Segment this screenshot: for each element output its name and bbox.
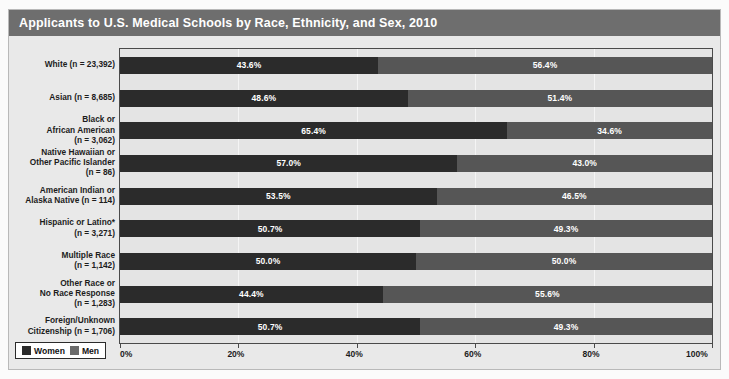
bar-segment-men[interactable]: 56.4% [378,57,712,74]
bar-value-label-men: 46.5% [562,191,587,201]
bar-segment-women[interactable]: 50.0% [120,253,416,270]
bar-segment-women[interactable]: 43.6% [120,57,378,74]
category-axis-labels: White (n = 23,392)Asian (n = 8,685)Black… [9,48,115,344]
bar-segment-women[interactable]: 50.7% [120,318,420,335]
bar-row: 53.5%46.5% [120,188,712,205]
bar-row: 65.4%34.6% [120,122,712,139]
bar-value-label-women: 65.4% [301,126,326,136]
category-label: Other Race or No Race Response (n = 1,28… [9,278,115,309]
chart-legend: Women Men [15,342,106,359]
axis-tick-label: 100% [686,349,708,359]
bar-segment-men[interactable]: 49.3% [420,220,712,237]
chart-screenshot: Applicants to U.S. Medical Schools by Ra… [0,0,729,379]
bar-value-label-men: 51.4% [548,93,573,103]
legend-item-women[interactable]: Women [22,346,65,356]
bar-value-label-women: 53.5% [266,191,291,201]
category-label: American Indian or Alaska Native (n = 11… [9,185,115,205]
bar-segment-women[interactable]: 44.4% [120,286,383,303]
bar-value-label-women: 50.0% [256,256,281,266]
axis-tick-label: 20% [227,349,244,359]
bar-value-label-women: 57.0% [276,158,301,168]
bar-segment-men[interactable]: 49.3% [420,318,712,335]
bar-segment-men[interactable]: 55.6% [383,286,712,303]
chart-body: White (n = 23,392)Asian (n = 8,685)Black… [9,36,720,369]
bar-row: 50.0%50.0% [120,253,712,270]
legend-label-women: Women [34,346,65,356]
bar-value-label-men: 50.0% [552,256,577,266]
bar-row: 48.6%51.4% [120,90,712,107]
axis-tick [357,344,358,348]
bar-row: 43.6%56.4% [120,57,712,74]
bar-segment-men[interactable]: 51.4% [408,90,712,107]
category-label: Hispanic or Latino* (n = 3,271) [9,217,115,237]
legend-item-men[interactable]: Men [70,346,99,356]
bar-segment-women[interactable]: 50.7% [120,220,420,237]
bar-value-label-women: 44.4% [239,289,264,299]
bar-segment-women[interactable]: 65.4% [120,122,507,139]
bar-segment-women[interactable]: 48.6% [120,90,408,107]
bar-segment-men[interactable]: 50.0% [416,253,712,270]
axis-tick-label: 60% [464,349,481,359]
bar-value-label-men: 56.4% [533,60,558,70]
axis-tick-label: 80% [583,349,600,359]
category-label: Native Hawaiian or Other Pacific Islande… [9,147,115,178]
axis-tick [475,344,476,348]
axis-tick [712,344,713,348]
bar-row: 50.7%49.3% [120,318,712,335]
category-label: Foreign/Unknown Citizenship (n = 1,706) [9,315,115,335]
bar-value-label-men: 34.6% [597,126,622,136]
page-title: Applicants to U.S. Medical Schools by Ra… [9,16,437,30]
bar-value-label-men: 49.3% [554,322,579,332]
bar-value-label-women: 50.7% [258,322,283,332]
category-label: White (n = 23,392) [9,59,115,69]
axis-tick [594,344,595,348]
chart-card: Applicants to U.S. Medical Schools by Ra… [8,9,721,370]
axis-tick-label: 40% [346,349,363,359]
axis-tick [120,344,121,348]
axis-tick [238,344,239,348]
bar-value-label-men: 49.3% [554,224,579,234]
bar-segment-men[interactable]: 43.0% [457,155,712,172]
value-axis: 0%20%40%60%80%100% [119,344,713,364]
category-label: Multiple Race (n = 1,142) [9,250,115,270]
bar-value-label-women: 48.6% [252,93,277,103]
legend-swatch-men-icon [70,346,79,355]
bar-row: 57.0%43.0% [120,155,712,172]
legend-swatch-women-icon [22,346,31,355]
chart-title-bar: Applicants to U.S. Medical Schools by Ra… [9,10,720,36]
bar-segment-women[interactable]: 57.0% [120,155,457,172]
axis-tick-label: 0% [120,349,132,359]
plot-area: 43.6%56.4%48.6%51.4%65.4%34.6%57.0%43.0%… [119,48,713,344]
bar-value-label-men: 43.0% [572,158,597,168]
bar-row: 50.7%49.3% [120,220,712,237]
bar-value-label-women: 50.7% [258,224,283,234]
bar-value-label-men: 55.6% [535,289,560,299]
bar-segment-men[interactable]: 34.6% [507,122,712,139]
bar-rows: 43.6%56.4%48.6%51.4%65.4%34.6%57.0%43.0%… [120,49,712,343]
category-label: Asian (n = 8,685) [9,92,115,102]
bar-value-label-women: 43.6% [237,60,262,70]
legend-label-men: Men [82,346,99,356]
bar-row: 44.4%55.6% [120,286,712,303]
bar-segment-men[interactable]: 46.5% [437,188,712,205]
bar-segment-women[interactable]: 53.5% [120,188,437,205]
category-label: Black or African American (n = 3,062) [9,114,115,145]
